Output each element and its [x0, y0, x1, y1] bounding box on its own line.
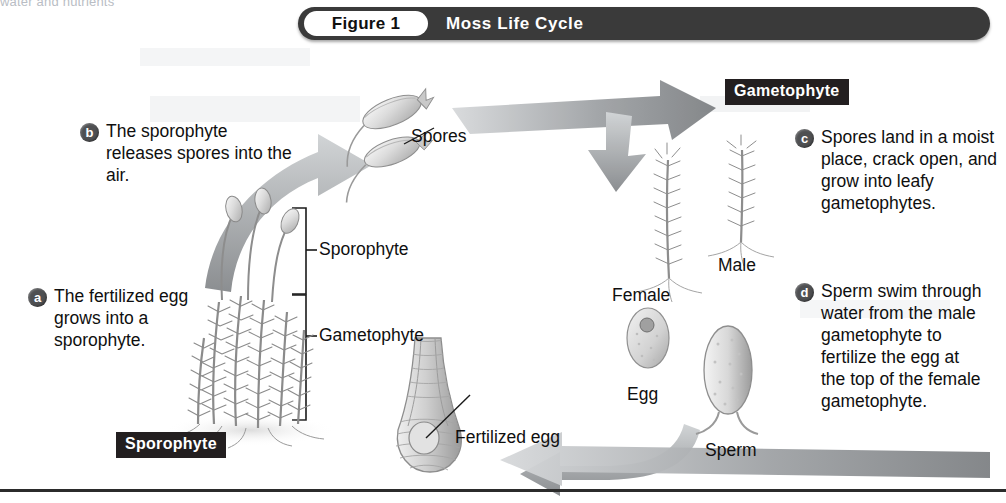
callout-badge-b: b — [80, 123, 99, 142]
part-label-fertilized-egg: Fertilized egg — [455, 427, 560, 448]
callout-text-b: The sporophyte releases spores into the … — [106, 120, 295, 186]
part-label-sperm: Sperm — [705, 440, 757, 461]
figure-number-pill: Figure 1 — [304, 11, 428, 36]
part-label-male: Male — [718, 255, 756, 276]
callout-text-d: Sperm swim through water from the male g… — [821, 280, 985, 412]
stage-label-sporophyte: Sporophyte — [116, 432, 226, 458]
page-bleed-through-text: water and nutrients — [0, 0, 114, 9]
callout-c: c Spores land in a moist place, crack op… — [795, 126, 1000, 214]
figure-title: Moss Life Cycle — [446, 7, 584, 40]
callout-b: b The sporophyte releases spores into th… — [80, 120, 295, 186]
page-bottom-rule — [0, 489, 1006, 492]
figure-number-label: Figure 1 — [332, 14, 401, 34]
part-label-female: Female — [612, 285, 670, 306]
bracket-label-sporophyte: Sporophyte — [319, 239, 409, 260]
figure-title-bar: Figure 1 Moss Life Cycle — [298, 7, 990, 40]
callout-badge-a: a — [28, 288, 47, 307]
bracket-label-gametophyte: Gametophyte — [319, 325, 424, 346]
callout-text-a: The fertilized egg grows into a sporophy… — [54, 285, 228, 351]
callout-text-c: Spores land in a moist place, crack open… — [821, 126, 1000, 214]
callout-badge-d: d — [795, 283, 814, 302]
callout-badge-c: c — [795, 129, 814, 148]
figure-page: water and nutrients — [0, 0, 1006, 503]
callout-a: a The fertilized egg grows into a sporop… — [28, 285, 228, 351]
part-label-egg: Egg — [627, 384, 658, 405]
callout-d: d Sperm swim through water from the male… — [795, 280, 985, 412]
part-label-spores: Spores — [411, 126, 466, 147]
stage-label-gametophyte: Gametophyte — [725, 79, 849, 105]
